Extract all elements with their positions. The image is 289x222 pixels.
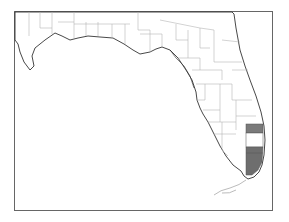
county-palm-beach	[246, 124, 263, 133]
florida-county-map	[0, 0, 289, 222]
county-broward	[246, 133, 263, 147]
